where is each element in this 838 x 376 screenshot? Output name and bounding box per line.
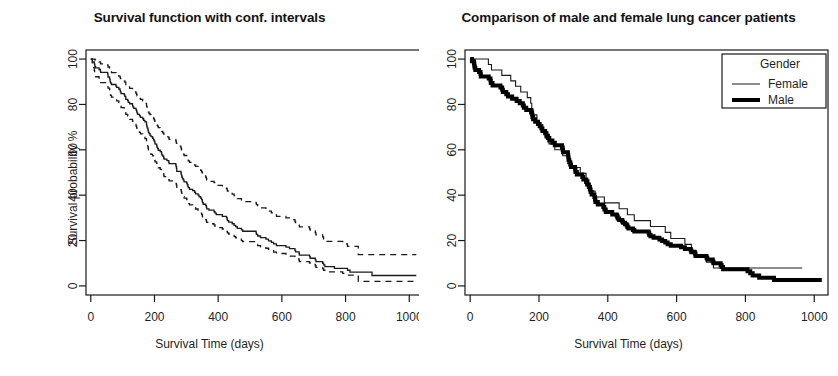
y-tick-label: 20 bbox=[66, 234, 80, 248]
y-tick-label: 40 bbox=[66, 188, 80, 202]
y-tick-label: 100 bbox=[66, 49, 80, 69]
x-tick-label: 0 bbox=[467, 310, 474, 324]
y-tick-label: 0 bbox=[445, 282, 459, 289]
x-tick-label: 600 bbox=[667, 310, 687, 324]
x-tick-label: 600 bbox=[272, 310, 292, 324]
y-tick-label: 60 bbox=[66, 143, 80, 157]
x-tick-label: 200 bbox=[144, 310, 164, 324]
series-line-survival-estimate bbox=[91, 59, 416, 275]
y-tick-label: 40 bbox=[445, 188, 459, 202]
x-tick-label: 0 bbox=[87, 310, 94, 324]
plot-area-left: 02004006008001000020406080100 bbox=[0, 0, 419, 376]
x-tick-label: 400 bbox=[598, 310, 618, 324]
x-tick-label: 1000 bbox=[801, 310, 828, 324]
x-tick-label: 400 bbox=[208, 310, 228, 324]
y-tick-label: 100 bbox=[445, 49, 459, 69]
legend-label-female: Female bbox=[768, 77, 808, 91]
y-tick-label: 80 bbox=[66, 97, 80, 111]
x-tick-label: 800 bbox=[735, 310, 755, 324]
x-tick-label: 800 bbox=[336, 310, 356, 324]
x-tick-label: 1000 bbox=[396, 310, 419, 324]
plot-frame bbox=[86, 50, 419, 295]
y-tick-label: 20 bbox=[445, 234, 459, 248]
plot-area-right: 02004006008001000020406080100GenderFemal… bbox=[419, 0, 838, 376]
y-tick-label: 60 bbox=[445, 143, 459, 157]
panel-survival-ci: Survival function with conf. intervals S… bbox=[0, 0, 419, 376]
series-line-upper-95-confidence-limit bbox=[91, 59, 416, 255]
legend-title: Gender bbox=[760, 57, 800, 71]
series-line-lower-95-confidence-limit bbox=[91, 59, 416, 281]
figure-canvas: Survival function with conf. intervals S… bbox=[0, 0, 838, 376]
series-group bbox=[91, 59, 416, 281]
legend: GenderFemaleMale bbox=[722, 54, 826, 108]
panel-gender-comparison: Comparison of male and female lung cance… bbox=[419, 0, 838, 376]
y-tick-label: 80 bbox=[445, 97, 459, 111]
legend-label-male: Male bbox=[768, 93, 794, 107]
x-tick-label: 200 bbox=[529, 310, 549, 324]
y-tick-label: 0 bbox=[66, 282, 80, 289]
